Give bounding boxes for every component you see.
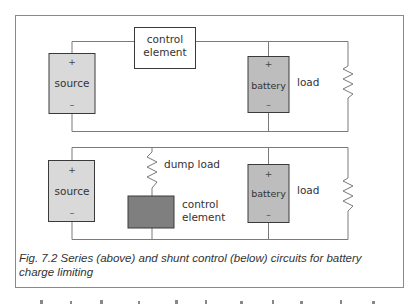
plus-sign: + [68, 165, 76, 175]
minus-sign: – [70, 100, 75, 110]
battery-label: battery [251, 188, 286, 199]
minus-sign: – [266, 100, 271, 110]
control-element-label: control [147, 33, 183, 45]
load-label: load [297, 76, 319, 88]
minus-sign: – [266, 210, 271, 220]
control-element-label: element [143, 46, 186, 58]
cut-off-text-line [40, 300, 375, 304]
source-label: source [55, 185, 90, 197]
control-element-label: element [182, 211, 225, 223]
figure-caption: charge limiting [19, 266, 94, 278]
plus-sign: + [265, 59, 273, 69]
figure-caption: Fig. 7.2 Series (above) and shunt contro… [19, 252, 363, 264]
shunt-control-element-box [128, 196, 174, 228]
minus-sign: – [70, 208, 75, 218]
dump-load-label: dump load [164, 158, 220, 170]
circuit-figure: + source – control element + battery – l… [0, 0, 419, 304]
control-element-label: control [182, 198, 218, 210]
plus-sign: + [68, 57, 76, 67]
plus-sign: + [265, 169, 273, 179]
source-label: source [55, 77, 90, 89]
load-label: load [297, 184, 319, 196]
battery-label: battery [251, 80, 286, 91]
